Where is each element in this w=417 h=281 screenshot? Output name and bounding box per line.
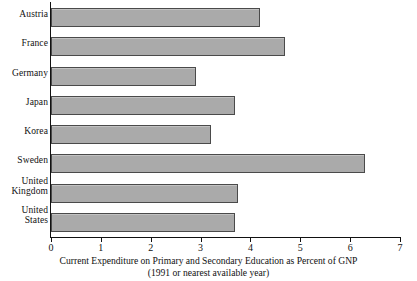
bar-row [51, 8, 400, 27]
bar [51, 184, 238, 203]
x-axis-tick-label: 3 [191, 242, 211, 254]
category-label-group: AustriaFranceGermanyJapanKoreaSwedenUnit… [0, 0, 48, 234]
bar-row [51, 184, 400, 203]
category-label: France [2, 38, 48, 49]
category-label: Korea [2, 126, 48, 137]
category-label-part: United [22, 205, 48, 215]
x-axis-tick-label: 7 [390, 242, 410, 254]
category-label: Japan [2, 97, 48, 108]
x-axis-tick-label: 5 [290, 242, 310, 254]
bar-row [51, 213, 400, 232]
category-label-part: States [25, 215, 48, 225]
bar [51, 67, 196, 86]
bar [51, 8, 260, 27]
bar [51, 154, 365, 173]
bar [51, 96, 235, 115]
bar-row [51, 154, 400, 173]
x-axis-tick-label: 1 [91, 242, 111, 254]
x-axis-line [50, 237, 401, 238]
category-label: Austria [2, 9, 48, 20]
bar-row [51, 67, 400, 86]
category-label: UnitedKingdom [2, 176, 48, 197]
bar [51, 213, 235, 232]
bar-row [51, 37, 400, 56]
category-label-part: United [22, 176, 48, 186]
bar [51, 37, 285, 56]
x-axis-tick-label: 4 [240, 242, 260, 254]
category-label-part: Kingdom [11, 186, 48, 196]
category-label: Sweden [2, 155, 48, 166]
category-label: Germany [2, 68, 48, 79]
caption-line-1: Current Expenditure on Primary and Secon… [0, 255, 417, 267]
category-label: UnitedStates [2, 205, 48, 226]
bar [51, 125, 211, 144]
caption-line-2: (1991 or nearest available year) [0, 267, 417, 279]
bar-row [51, 125, 400, 144]
x-axis-tick-label: 2 [141, 242, 161, 254]
x-axis-tick-label: 6 [340, 242, 360, 254]
bar-chart: AustriaFranceGermanyJapanKoreaSwedenUnit… [0, 0, 417, 281]
bar-row [51, 96, 400, 115]
x-axis-tick-label: 0 [41, 242, 61, 254]
chart-caption: Current Expenditure on Primary and Secon… [0, 255, 417, 278]
plot-area [51, 3, 400, 237]
